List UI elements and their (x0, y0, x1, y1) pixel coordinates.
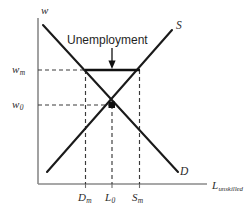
x-tick-l0-subscript: 0 (111, 196, 115, 205)
x-tick-dm-base: D (78, 191, 86, 203)
y-axis-label: w (41, 5, 48, 16)
unemployment-supply-demand-figure: w Lunskilled wm w0 Dm L0 Sm S D Unemploy… (0, 0, 252, 215)
x-axis-label-subscript: unskilled (218, 185, 243, 192)
x-axis-label: Lunskilled (212, 180, 243, 191)
x-tick-sm-subscript: m (138, 196, 143, 205)
x-tick-label-dm: Dm (78, 192, 91, 203)
y-tick-label-w0: w0 (12, 99, 23, 110)
y-tick-wm-subscript: m (20, 68, 25, 77)
y-tick-wm-base: w (12, 63, 19, 75)
y-tick-w0-subscript: 0 (20, 103, 24, 112)
y-tick-label-wm: wm (12, 64, 25, 75)
demand-curve-label: D (180, 166, 188, 178)
y-tick-w0-base: w (12, 98, 19, 110)
x-tick-dm-subscript: m (86, 196, 91, 205)
equilibrium-point-marker (109, 102, 116, 109)
unemployment-annotation-label: Unemployment (67, 34, 148, 46)
x-tick-sm-base: S (132, 191, 138, 203)
x-tick-label-sm: Sm (132, 192, 143, 203)
x-tick-label-l0: L0 (105, 192, 115, 203)
supply-curve-label: S (176, 20, 182, 32)
unemployment-arrow-head (108, 61, 115, 70)
